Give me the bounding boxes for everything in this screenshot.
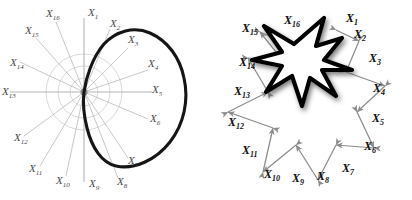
label-x16: X16 xyxy=(283,13,300,29)
inner-black-star xyxy=(252,18,352,106)
label-x1: X1 xyxy=(345,11,358,27)
spoke-x11 xyxy=(40,92,84,166)
label-x4: X4 xyxy=(372,81,385,97)
label-x5: X5 xyxy=(151,83,163,98)
label-x15: X15 xyxy=(241,21,258,37)
label-x4: X4 xyxy=(147,57,159,72)
spoke-x15 xyxy=(36,38,84,92)
label-x5: X5 xyxy=(371,111,384,127)
label-x12: X12 xyxy=(13,131,28,146)
label-x3: X3 xyxy=(368,51,381,67)
spoke-x6 xyxy=(84,92,148,119)
label-x13: X13 xyxy=(1,85,16,100)
label-x10: X10 xyxy=(55,174,70,189)
label-x7: X7 xyxy=(341,161,355,177)
star-diagram-svg: X1 X2 X3 X4 X5 X6 X7 X8 X9 X10 X11 X12 X… xyxy=(206,0,412,200)
label-x8: X8 xyxy=(316,169,329,185)
label-x9: X9 xyxy=(88,177,100,192)
label-x11: X11 xyxy=(241,143,258,159)
spoke-x14 xyxy=(20,62,84,92)
label-x10: X10 xyxy=(263,167,280,183)
label-x2: X2 xyxy=(353,27,366,43)
label-x13: X13 xyxy=(233,84,250,100)
label-x2: X2 xyxy=(109,17,121,32)
label-x6: X6 xyxy=(149,112,161,127)
spoke-x10 xyxy=(66,92,84,176)
label-x14: X14 xyxy=(238,55,255,71)
label-x6: X6 xyxy=(363,139,376,155)
label-x3: X3 xyxy=(127,33,139,48)
spoke-x12 xyxy=(24,92,84,136)
label-x15: X15 xyxy=(24,24,39,39)
radar-plot-svg: X1 X2 X3 X4 X5 X6 X7 X8 X9 X10 X11 X12 X… xyxy=(0,0,206,200)
panel-star-arrow-diagram: X1 X2 X3 X4 X5 X6 X7 X8 X9 X10 X11 X12 X… xyxy=(206,0,412,200)
spoke-x2 xyxy=(84,29,110,92)
label-x16: X16 xyxy=(45,7,60,22)
label-x11: X11 xyxy=(28,162,42,177)
figure-root: X1 X2 X3 X4 X5 X6 X7 X8 X9 X10 X11 X12 X… xyxy=(0,0,412,200)
label-x8: X8 xyxy=(116,175,128,190)
label-x1: X1 xyxy=(87,6,98,21)
spoke-x4 xyxy=(84,70,148,92)
label-x14: X14 xyxy=(9,56,24,71)
label-x9: X9 xyxy=(291,171,304,187)
panel-radar-polar-plot: X1 X2 X3 X4 X5 X6 X7 X8 X9 X10 X11 X12 X… xyxy=(0,0,206,200)
